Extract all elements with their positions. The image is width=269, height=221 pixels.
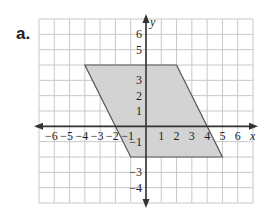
- svg-text:6: 6: [136, 27, 142, 41]
- svg-text:2: 2: [136, 89, 142, 103]
- svg-text:−4: −4: [75, 129, 88, 143]
- svg-text:−5: −5: [60, 129, 73, 143]
- svg-text:3: 3: [136, 73, 142, 87]
- svg-text:−4: −4: [129, 181, 142, 195]
- svg-text:5: 5: [219, 129, 225, 143]
- svg-text:y: y: [149, 15, 156, 29]
- svg-text:4: 4: [204, 129, 210, 143]
- svg-text:1: 1: [158, 129, 164, 143]
- svg-text:6: 6: [235, 129, 241, 143]
- svg-text:3: 3: [189, 129, 195, 143]
- coordinate-graph: −6−5−4−3−2−112345665321−1−3−4xy: [0, 0, 269, 221]
- svg-text:x: x: [249, 129, 256, 143]
- svg-text:5: 5: [136, 43, 142, 57]
- svg-text:−6: −6: [45, 129, 58, 143]
- svg-text:−2: −2: [106, 129, 119, 143]
- svg-text:2: 2: [174, 129, 180, 143]
- svg-text:−3: −3: [129, 165, 142, 179]
- svg-text:−1: −1: [129, 135, 142, 149]
- svg-text:−3: −3: [91, 129, 104, 143]
- svg-text:1: 1: [136, 104, 142, 118]
